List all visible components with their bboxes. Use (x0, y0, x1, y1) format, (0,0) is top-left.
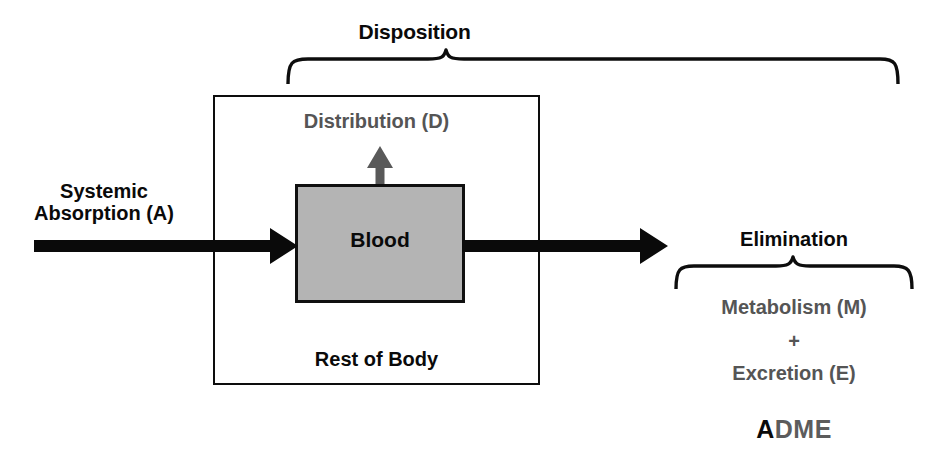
diagram-canvas: Disposition Distribution (D) Blood Rest … (0, 0, 931, 471)
absorption-flow-arrow-icon (34, 228, 298, 264)
disposition-group-label: Disposition (0, 20, 931, 44)
systemic-absorption-line2: Absorption (A) (0, 202, 208, 224)
distribution-label: Distribution (D) (213, 110, 540, 132)
adme-acronym-dme: DME (775, 415, 832, 443)
metabolism-label: Metabolism (M) (676, 296, 912, 318)
disposition-group-label-text: Disposition (358, 20, 470, 44)
systemic-absorption-line1: Systemic (0, 180, 208, 202)
excretion-label: Excretion (E) (676, 362, 912, 384)
adme-acronym-a: A (756, 415, 775, 443)
plus-operator-label: + (676, 330, 912, 352)
rest-of-body-label: Rest of Body (213, 348, 540, 370)
elimination-brace-icon (674, 255, 914, 289)
elimination-flow-arrow-icon (462, 228, 668, 264)
elimination-group-label: Elimination (676, 228, 912, 250)
blood-label: Blood (295, 228, 465, 252)
adme-acronym: ADME (676, 415, 912, 443)
systemic-absorption-label: Systemic Absorption (A) (0, 180, 208, 225)
disposition-brace-icon (286, 48, 900, 84)
